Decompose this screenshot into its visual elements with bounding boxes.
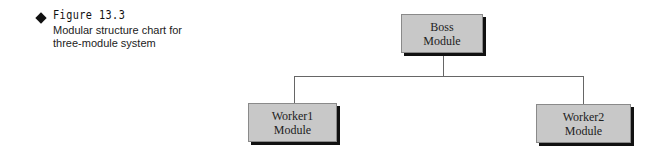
diamond-bullet-icon [35,12,46,23]
worker2-module-node: Worker2 Module [536,104,631,143]
connector-worker1-up [294,76,295,103]
boss-module-node: Boss Module [401,14,483,53]
figure-title: Modular structure chart for three-module… [53,24,213,50]
connector-horizontal [294,76,584,77]
connector-boss-down [443,52,444,76]
figure-number: Figure 13.3 [53,8,125,22]
worker1-module-node: Worker1 Module [248,103,337,142]
connector-worker2-up [583,76,584,104]
